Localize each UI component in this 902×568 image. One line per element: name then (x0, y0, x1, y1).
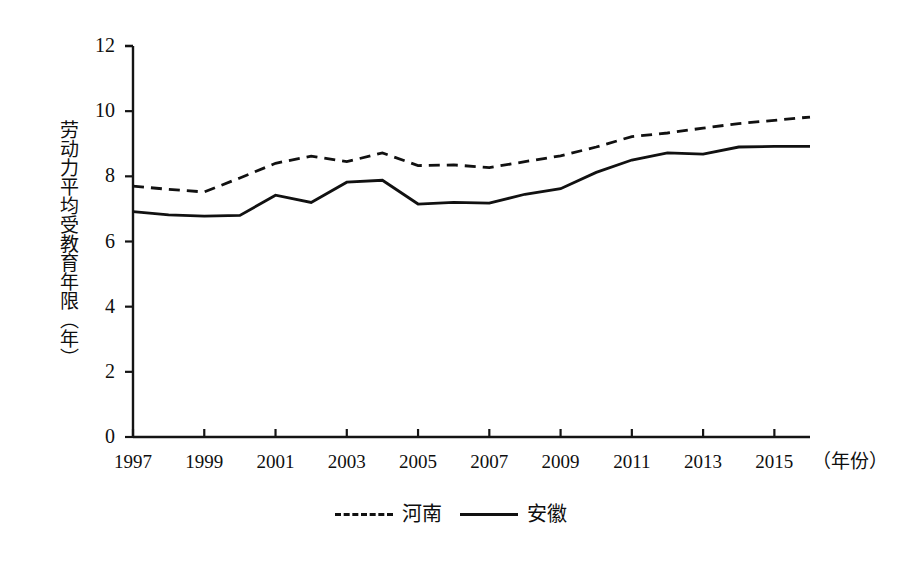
legend-swatch-solid-line-icon (460, 513, 518, 516)
axis-ticks (125, 46, 774, 437)
legend-label: 安徽 (527, 504, 567, 524)
data-series-group (133, 117, 810, 216)
series-line-2 (133, 146, 810, 216)
legend-entry-1[interactable]: 河南 (335, 504, 442, 524)
axis-lines (125, 46, 810, 437)
plot-area (0, 0, 902, 568)
line-chart: 劳动力平均受教育年限（年） 121086420 1997199920012003… (0, 0, 902, 568)
legend-label: 河南 (402, 504, 442, 524)
legend: 河南安徽 (296, 497, 606, 531)
legend-swatch-dashed-line-icon (335, 513, 393, 516)
legend-entry-2[interactable]: 安徽 (460, 504, 567, 524)
